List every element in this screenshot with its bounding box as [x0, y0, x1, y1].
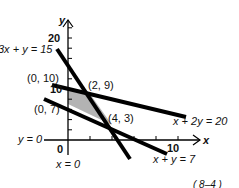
- point-label-4-3: (4, 3): [108, 112, 134, 124]
- point-label-0-7: (0, 7): [34, 103, 60, 115]
- diagram-canvas: y x 20 10 10 0 3x + y = 15 x + 2y = 20 x…: [0, 0, 239, 188]
- figure-caption: ( 8–4 ): [193, 179, 222, 188]
- point-label-0-10: (0, 10): [27, 72, 59, 84]
- point-label-2-9: (2, 9): [88, 79, 114, 91]
- label-3x-plus-y-15: 3x + y = 15: [0, 43, 53, 55]
- label-x-plus-y-7: x + y = 7: [152, 153, 196, 165]
- y-axis-label: y: [58, 14, 66, 26]
- x-axis-label: x: [202, 134, 210, 146]
- label-x-plus-2y-20: x + 2y = 20: [172, 115, 228, 127]
- label-x-0: x = 0: [55, 158, 81, 170]
- y-tick-10: 10: [50, 83, 62, 95]
- lp-feasible-region-diagram: y x 20 10 10 0 3x + y = 15 x + 2y = 20 x…: [0, 0, 239, 188]
- label-y-0: y = 0: [17, 133, 43, 145]
- origin-label: 0: [57, 143, 63, 155]
